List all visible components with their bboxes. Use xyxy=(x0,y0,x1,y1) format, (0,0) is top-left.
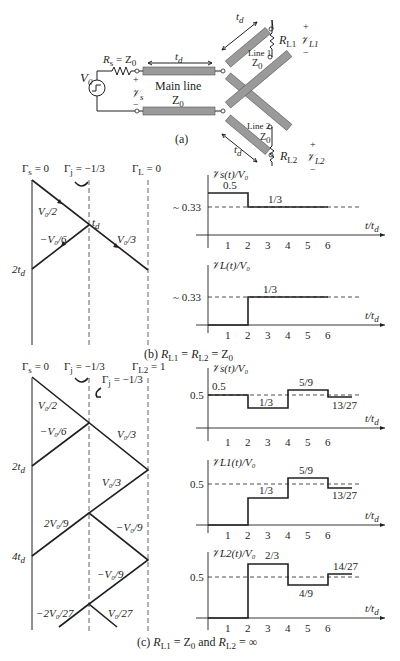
wave-label: −V₀/9 xyxy=(97,568,124,580)
line1-impedance: Z0 xyxy=(252,57,263,71)
x-tick: 2 xyxy=(245,529,251,541)
time-marker: 2td xyxy=(12,460,26,475)
rl1-label: RL1 xyxy=(278,33,296,49)
source-resistor-label: Rs = Z0 xyxy=(102,53,137,68)
y-axis-label: 𝒱L1(t)/V₀ xyxy=(211,456,256,469)
x-tick: 4 xyxy=(285,329,291,341)
reflection-arrow-icon xyxy=(96,388,101,397)
line2-label: Line 2 xyxy=(247,121,270,131)
y-axis-label: 𝒱s(t)/V₀ xyxy=(211,362,248,375)
lattice-diagram-b: Γs = 0 Γj = −1/3 ΓL = 0 V₀/2 −V₀/6 V₀/3 … xyxy=(12,162,162,345)
x-axis-label: t/td xyxy=(365,219,379,234)
level-label: 1/3 xyxy=(268,193,283,205)
wave-label: −V₀/6 xyxy=(40,233,67,245)
level-label: 13/27 xyxy=(332,489,358,501)
plot-b-vs: 𝒱s(t)/V₀ 0.5 1/3 ~ 0.33 t/td 1 2 3 4 5 6 xyxy=(173,168,385,251)
time-marker: 2td xyxy=(12,263,26,278)
x-tick: 5 xyxy=(305,329,311,341)
level-label: 1/3 xyxy=(263,283,278,295)
level-label: 2/3 xyxy=(265,549,280,561)
wave-label: 2V₀/9 xyxy=(44,517,69,529)
x-tick: 3 xyxy=(265,529,271,541)
x-tick: 5 xyxy=(305,239,311,251)
wave-label: −2V₀/27 xyxy=(36,607,74,619)
line1-delay-label: td xyxy=(236,10,244,25)
td-marker: td xyxy=(92,216,100,231)
vl2-plus: + xyxy=(310,139,316,150)
level-label: 14/27 xyxy=(333,560,359,572)
level-label: 5/9 xyxy=(299,464,314,476)
line2-delay-label: td xyxy=(234,143,242,158)
x-tick: 6 xyxy=(325,622,331,634)
x-tick: 6 xyxy=(325,436,331,448)
gamma-s-b: Γs = 0 xyxy=(22,162,50,177)
reflection-arrow-icon xyxy=(75,182,88,186)
x-axis-label: t/td xyxy=(365,412,379,427)
lattice-diagram-c: Γs = 0 Γj = −1/3 Γj = −1/3 ΓL2 = 1 V₀/2 … xyxy=(12,360,166,632)
x-tick: 4 xyxy=(285,239,291,251)
plot-c-vl2: 𝒱L2(t)/V₀ 2/3 4/9 14/27 0.5 t/td 1 2 3 4… xyxy=(190,547,385,634)
x-tick: 4 xyxy=(285,436,291,448)
time-marker: 4td xyxy=(12,550,26,565)
vs-plus: + xyxy=(133,74,139,85)
wave-label: V₀/27 xyxy=(108,607,133,619)
x-tick: 6 xyxy=(325,239,331,251)
x-tick: 3 xyxy=(265,329,271,341)
load-resistor-2-icon xyxy=(270,127,274,166)
main-line-impedance: Z0 xyxy=(172,93,184,109)
wave-label: −V₀/9 xyxy=(116,521,143,533)
x-tick: 4 xyxy=(285,622,291,634)
gamma-j-b: Γj = −1/3 xyxy=(64,162,105,177)
x-tick: 2 xyxy=(245,436,251,448)
vl2-minus: − xyxy=(310,164,316,175)
x-tick: 4 xyxy=(285,529,291,541)
circuit-diagram: V0 Rs = Z0 + 𝒱s − td Main line Z0 td t xyxy=(80,10,325,175)
rl2-label: RL2 xyxy=(279,149,297,165)
plot-b-vl: 𝒱L(t)/V₀ 1/3 ~ 0.33 t/td 1 2 3 4 5 6 xyxy=(173,259,385,341)
level-label: 4/9 xyxy=(299,587,314,599)
figure-canvas: V0 Rs = Z0 + 𝒱s − td Main line Z0 td t xyxy=(0,0,400,661)
wave-label: V₀/3 xyxy=(117,233,137,245)
x-axis-label: t/td xyxy=(365,509,379,524)
level-label: 1/3 xyxy=(259,484,274,496)
vs-minus: − xyxy=(133,99,139,110)
y-tick: ~ 0.33 xyxy=(173,201,201,213)
y-axis-label: 𝒱L2(t)/V₀ xyxy=(211,547,256,560)
wave-label: V₀/2 xyxy=(38,205,58,217)
gamma-j2-c: Γj = −1/3 xyxy=(102,373,143,388)
level-label: 5/9 xyxy=(299,376,314,388)
source-resistor-icon xyxy=(112,67,135,75)
plot-c-vl1: 𝒱L1(t)/V₀ 1/3 5/9 13/27 0.5 t/td 1 2 3 4… xyxy=(190,456,385,541)
x-tick: 5 xyxy=(305,622,311,634)
x-tick: 6 xyxy=(325,329,331,341)
y-tick: 0.5 xyxy=(190,389,204,401)
x-tick: 3 xyxy=(265,622,271,634)
gamma-s-c: Γs = 0 xyxy=(22,360,50,375)
wave-label: V₀/2 xyxy=(38,399,58,411)
x-tick: 2 xyxy=(245,239,251,251)
x-tick: 1 xyxy=(225,329,231,341)
level-label: 1/3 xyxy=(259,396,274,408)
x-tick: 1 xyxy=(225,239,231,251)
x-axis-label: t/td xyxy=(365,602,379,617)
main-line-label: Main line xyxy=(155,79,201,93)
x-tick: 3 xyxy=(265,239,271,251)
x-axis-label: t/td xyxy=(365,309,379,324)
vl1-minus: − xyxy=(303,47,309,58)
main-line-top xyxy=(143,67,215,75)
x-tick: 1 xyxy=(225,622,231,634)
x-tick: 1 xyxy=(225,529,231,541)
gamma-l-b: ΓL = 0 xyxy=(132,162,162,177)
x-tick: 3 xyxy=(265,436,271,448)
source-voltage-label: V0 xyxy=(80,70,93,87)
y-tick: 0.5 xyxy=(190,478,204,490)
plot-c-vs: 𝒱s(t)/V₀ 0.5 1/3 5/9 13/27 0.5 t/td 1 2 … xyxy=(190,362,385,448)
x-tick: 5 xyxy=(305,529,311,541)
y-tick: 0.5 xyxy=(190,571,204,583)
gamma-j-c: Γj = −1/3 xyxy=(64,360,105,375)
y-axis-label: 𝒱L(t)/V₀ xyxy=(211,259,250,272)
vl1-plus: + xyxy=(303,21,309,32)
caption-a: (a) xyxy=(175,132,188,146)
caption-c: (c) RL1 = Z0 and RL2 = ∞ xyxy=(137,635,257,651)
x-tick: 5 xyxy=(305,436,311,448)
